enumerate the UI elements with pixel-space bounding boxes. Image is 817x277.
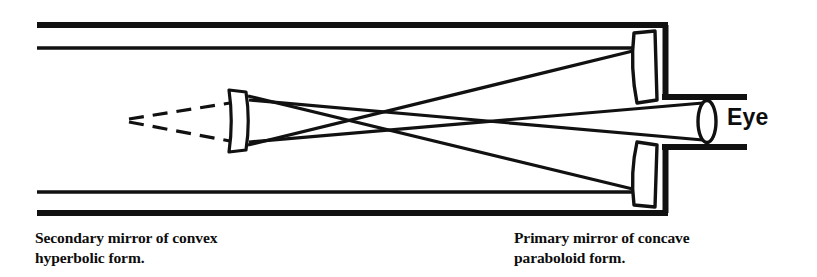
converging-ray-lower bbox=[249, 103, 703, 142]
eye-label: Eye bbox=[727, 104, 769, 131]
virtual-focus-dashed-line-upper bbox=[129, 103, 230, 119]
primary-mirror-lower-body bbox=[633, 142, 657, 207]
telescope-diagram: Eye Secondary mirror of convex hyperboli… bbox=[0, 0, 817, 277]
reflected-ray-lower bbox=[248, 96, 641, 191]
caption-secondary-mirror: Secondary mirror of convex hyperbolic fo… bbox=[35, 228, 217, 267]
virtual-focus-dashed-line-lower bbox=[129, 122, 230, 141]
secondary-mirror bbox=[229, 90, 248, 152]
primary-to-secondary-rays bbox=[248, 49, 641, 191]
secondary-to-eyepiece-rays bbox=[249, 100, 703, 142]
virtual-focus-construction bbox=[129, 103, 230, 141]
secondary-mirror-body bbox=[229, 90, 248, 152]
primary-mirror-upper-body bbox=[633, 31, 657, 103]
eyepiece-lens-body bbox=[698, 101, 716, 143]
caption-primary-mirror: Primary mirror of concave paraboloid for… bbox=[514, 228, 690, 267]
primary-mirror-upper-segment bbox=[633, 31, 657, 103]
primary-mirror-lower-segment bbox=[633, 142, 657, 207]
eyepiece-lens bbox=[698, 101, 716, 143]
converging-ray-upper bbox=[249, 100, 703, 140]
